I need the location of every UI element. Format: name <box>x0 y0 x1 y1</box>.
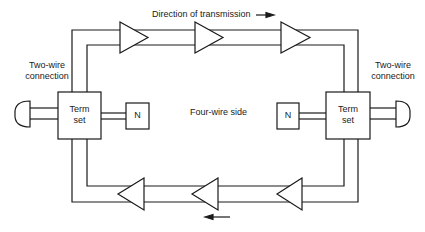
top-direction-arrow-icon <box>256 13 274 18</box>
right-connection-label-line2: connection <box>361 71 425 82</box>
left-network-label: N <box>126 110 149 121</box>
right-network-label: N <box>277 110 299 121</box>
amplifier-icon <box>118 178 144 210</box>
amplifier-icon <box>281 22 310 53</box>
right-term-set-label: Term set <box>326 104 370 126</box>
right-term-set-line2: set <box>326 115 370 126</box>
left-term-set-label: Term set <box>58 104 101 126</box>
left-connection-label: Two-wire connection <box>22 60 72 82</box>
right-connection-label-line1: Two-wire <box>361 60 425 71</box>
left-term-set-line1: Term <box>58 104 101 115</box>
right-connection-label: Two-wire connection <box>361 60 425 82</box>
right-telephone-icon <box>396 101 410 127</box>
amplifier-icon <box>192 178 218 210</box>
amplifier-icon <box>120 22 148 53</box>
amplifier-icon <box>195 22 223 53</box>
four-wire-side-label: Four-wire side <box>190 107 247 118</box>
direction-label: Direction of transmission <box>152 9 251 20</box>
left-telephone-icon <box>15 101 30 127</box>
amplifier-icon <box>277 178 302 210</box>
left-connection-label-line1: Two-wire <box>22 60 72 71</box>
left-connection-label-line2: connection <box>22 71 72 82</box>
right-term-set-line1: Term <box>326 104 370 115</box>
bottom-direction-arrow-icon <box>205 215 230 220</box>
left-term-set-line2: set <box>58 115 101 126</box>
